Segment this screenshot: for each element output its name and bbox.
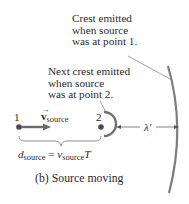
distance-equation: dsource = vsourceT: [18, 148, 90, 164]
wavelength-label: λ′: [144, 121, 151, 133]
crest-arc-point2: [104, 112, 116, 136]
annotation-crest-point2: Next crest emitted when source was at po…: [48, 66, 130, 101]
point-2-dot: [98, 124, 104, 130]
eq-t-symbol: T: [84, 148, 90, 160]
annotation-crest-point1: Crest emitted when source was at point 1…: [72, 13, 137, 48]
velocity-label: → v source: [41, 110, 68, 126]
eq-equals: =: [48, 148, 54, 160]
figure-caption: (b) Source moving: [35, 172, 123, 184]
annotation-2-line-1: Next crest emitted: [48, 66, 130, 78]
point-1-dot: [16, 124, 22, 130]
distance-brace: [19, 136, 101, 146]
eq-v-subscript: source: [62, 153, 84, 162]
point-2-label: 2: [96, 111, 102, 123]
doppler-source-moving-diagram: Crest emitted when source was at point 1…: [0, 0, 189, 204]
annotation-1-line-3: was at point 1.: [72, 36, 137, 48]
leader-line-point1: [128, 56, 172, 80]
eq-d-subscript: source: [24, 153, 46, 162]
velocity-subscript: source: [47, 115, 69, 124]
point-1-label: 1: [14, 111, 20, 123]
annotation-1-line-1: Crest emitted: [72, 13, 137, 25]
crest-arc-point1: [168, 66, 177, 193]
vector-arrow-icon: →: [42, 104, 50, 116]
annotation-2-line-3: was at point 2.: [48, 89, 130, 101]
